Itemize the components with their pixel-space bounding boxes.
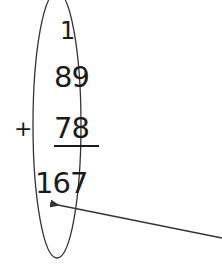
arrow-icon (58, 205, 222, 238)
sum-result: 167 (35, 166, 87, 200)
diagram-canvas: 1 89 + 78 167 (0, 0, 222, 273)
addend-2: 78 (54, 111, 89, 145)
carry-digit: 1 (60, 17, 75, 45)
plus-sign: + (14, 116, 32, 141)
addend-1: 89 (54, 60, 89, 94)
addition-diagram: 1 89 + 78 167 (0, 0, 222, 273)
